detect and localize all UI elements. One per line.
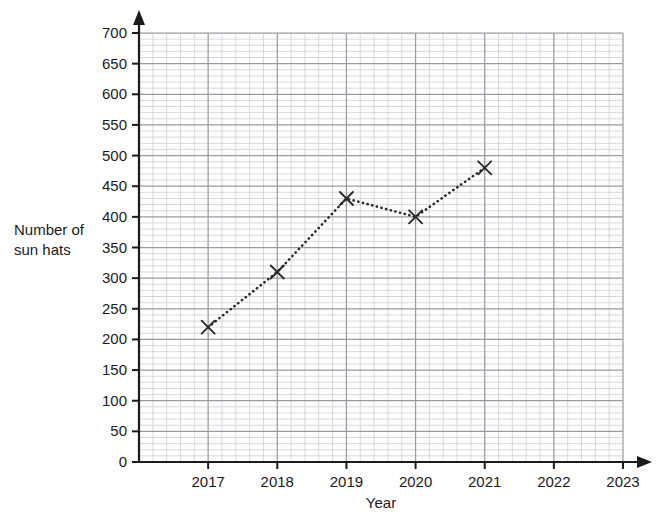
y-tick-label: 400 — [102, 208, 127, 225]
y-axis-title-line-2: sun hats — [14, 241, 71, 258]
line-chart: 0501001502002503003504004505005506006507… — [0, 0, 659, 520]
y-axis-title-line-1: Number of — [14, 221, 85, 238]
x-tick-label: 2022 — [537, 473, 570, 490]
chart-canvas: 0501001502002503003504004505005506006507… — [0, 0, 659, 520]
x-tick-label: 2017 — [191, 473, 224, 490]
x-tick-label: 2020 — [399, 473, 432, 490]
y-axis-tick-labels: 0501001502002503003504004505005506006507… — [102, 24, 127, 470]
y-tick-label: 200 — [102, 330, 127, 347]
y-tick-label: 300 — [102, 269, 127, 286]
y-tick-label: 500 — [102, 147, 127, 164]
y-tick-label: 450 — [102, 177, 127, 194]
x-tick-label: 2018 — [261, 473, 294, 490]
x-axis-title: Year — [366, 494, 396, 511]
y-tick-label: 700 — [102, 24, 127, 41]
y-tick-label: 100 — [102, 392, 127, 409]
y-tick-label: 650 — [102, 55, 127, 72]
x-tick-label: 2019 — [330, 473, 363, 490]
y-tick-label: 600 — [102, 85, 127, 102]
y-tick-label: 550 — [102, 116, 127, 133]
y-tick-label: 350 — [102, 239, 127, 256]
x-tick-label: 2021 — [468, 473, 501, 490]
y-tick-label: 250 — [102, 300, 127, 317]
y-tick-label: 150 — [102, 361, 127, 378]
x-tick-label: 2023 — [606, 473, 639, 490]
y-tick-label: 50 — [110, 422, 127, 439]
y-tick-label: 0 — [119, 453, 127, 470]
